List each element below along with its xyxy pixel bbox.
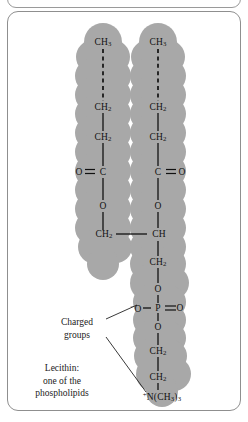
atom-o-double: O — [176, 303, 183, 313]
figure-root: CH3 CH2 CH2 O C O CH2 CH3 CH2 CH2 C O O … — [0, 0, 248, 422]
atom-right-ch2-b: CH2 — [149, 132, 166, 142]
subscript: 3 — [163, 40, 167, 47]
atom-phosphorus: P — [155, 303, 160, 313]
atom-glycerol-ch2-left: CH2 — [95, 229, 112, 239]
charge-minus: − — [130, 303, 134, 310]
atom-o-phosphate-top: O — [154, 284, 161, 294]
subscript: 3 — [171, 395, 175, 402]
atom-left-ch2-b: CH2 — [94, 132, 111, 142]
atom-right-carbonyl-c: C — [155, 167, 162, 177]
lecithin-caption: Lecithin: one of the phospholipids — [10, 362, 114, 400]
atom-glycerol-ch: CH — [152, 229, 166, 239]
subscript: 2 — [163, 349, 167, 356]
lecithin-caption-line1: Lecithin: — [10, 362, 114, 375]
atom-left-ch3: CH3 — [94, 37, 111, 47]
atom-left-ch2-a: CH2 — [94, 102, 111, 112]
atom-right-carbonyl-o: O — [178, 167, 185, 177]
atom-right-ester-o: O — [154, 201, 161, 211]
atom-right-ch2-a: CH2 — [149, 102, 166, 112]
subscript: 2 — [163, 135, 167, 142]
atom-left-carbonyl-o: O — [75, 167, 82, 177]
charge-plus: + — [143, 391, 147, 398]
charged-groups-line1: Charged — [46, 316, 108, 329]
atom-o-minus: −O — [130, 303, 141, 314]
atom-n-trimethylammonium: +N(CH3)3 — [143, 391, 182, 402]
atom-left-carbonyl-c: C — [100, 167, 107, 177]
charged-groups-line2: groups — [46, 329, 108, 342]
subscript: 2 — [108, 105, 112, 112]
lecithin-caption-line3: phospholipids — [10, 387, 114, 400]
atom-label-layer: CH3 CH2 CH2 O C O CH2 CH3 CH2 CH2 C O O … — [0, 0, 248, 422]
subscript: 2 — [163, 105, 167, 112]
subscript: 3 — [178, 395, 182, 402]
subscript: 3 — [108, 40, 112, 47]
atom-ch2-choline-a: CH2 — [149, 346, 166, 356]
subscript: 2 — [108, 135, 112, 142]
atom-ch2-phosphate: CH2 — [149, 257, 166, 267]
subscript: 2 — [163, 260, 167, 267]
atom-o-phosphate-bottom: O — [154, 322, 161, 332]
atom-right-ch3: CH3 — [149, 37, 166, 47]
charged-groups-label: Charged groups — [46, 316, 108, 341]
atom-ch2-choline-b: CH2 — [149, 372, 166, 382]
subscript: 2 — [109, 232, 113, 239]
lecithin-caption-line2: one of the — [10, 375, 114, 388]
atom-left-ester-o: O — [99, 201, 106, 211]
subscript: 2 — [163, 375, 167, 382]
